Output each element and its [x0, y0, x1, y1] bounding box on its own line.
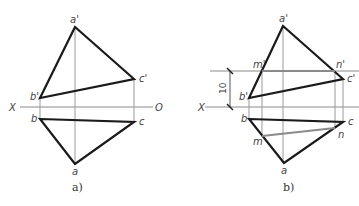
front-view-triangle	[40, 27, 134, 98]
label-a-prime: a'	[70, 14, 79, 25]
label-a: a	[72, 166, 78, 177]
label-b: b	[31, 113, 37, 124]
label-n: n	[338, 129, 344, 140]
top-view-triangle	[40, 119, 134, 164]
label-a: a	[281, 165, 287, 176]
dimension-value: 10	[218, 82, 228, 94]
projection-diagram: a' b' c' b c a X O a) 10 a' m'	[0, 0, 359, 206]
label-n-prime: n'	[336, 59, 345, 70]
caption-a: a)	[72, 181, 83, 194]
axis-label-x: X	[8, 102, 17, 113]
axis-label-o: O	[155, 102, 163, 113]
label-c-prime: c'	[139, 73, 147, 84]
axis-label-x: X	[197, 102, 206, 113]
panel-a: a' b' c' b c a X O a)	[8, 14, 163, 194]
label-m-prime: m'	[253, 59, 266, 70]
label-c-prime: c'	[347, 73, 355, 84]
label-b-prime: b'	[239, 91, 248, 102]
label-b-prime: b'	[30, 91, 39, 102]
label-m: m	[253, 136, 263, 147]
label-c: c	[139, 116, 145, 127]
top-view-triangle	[249, 119, 343, 163]
caption-b: b)	[283, 181, 294, 194]
label-b: b	[241, 113, 247, 124]
panel-b: 10 a' m' n' b' c' b c m n a X b)	[197, 13, 359, 194]
label-a-prime: a'	[279, 13, 288, 24]
label-c: c	[348, 116, 354, 127]
